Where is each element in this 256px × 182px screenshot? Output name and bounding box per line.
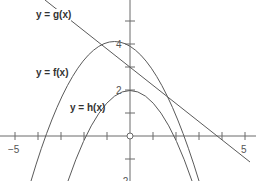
y-tick-label-4: 4 xyxy=(116,39,122,50)
curve-f xyxy=(31,42,199,182)
x-tick-label-neg5: −5 xyxy=(8,144,20,155)
function-graph: −5 5 4 2 −2 y = g(x) y = f(x) y = h(x) xyxy=(0,0,256,181)
x-tick-label-5: 5 xyxy=(241,144,247,155)
origin-marker xyxy=(127,133,133,139)
label-g: y = g(x) xyxy=(36,9,71,20)
curve-g xyxy=(45,0,250,162)
label-h: y = h(x) xyxy=(70,102,105,113)
y-tick-label-neg2: −2 xyxy=(117,176,129,181)
label-f: y = f(x) xyxy=(36,67,69,78)
